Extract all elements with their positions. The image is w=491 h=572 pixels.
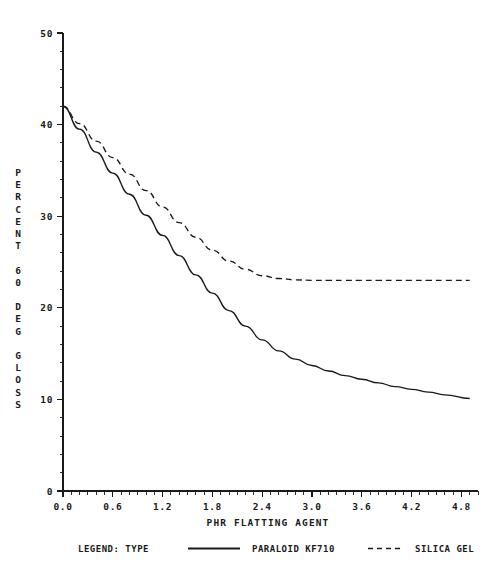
y-axis-label-char: N <box>15 228 21 239</box>
y-axis-label-char: T <box>15 240 21 251</box>
x-axis-title: PHR FLATTING AGENT <box>207 517 330 528</box>
y-axis-label-char: 6 <box>15 265 21 276</box>
x-tick-label: 0.6 <box>103 501 122 512</box>
series-lines <box>63 106 470 398</box>
y-axis-label-char: E <box>15 216 21 227</box>
series-line-1 <box>63 106 470 398</box>
x-axis: 0.00.61.21.82.43.03.64.24.8 <box>54 491 478 512</box>
y-axis-label-char: G <box>15 326 21 337</box>
y-axis-label-char: G <box>15 350 21 361</box>
y-axis-label-char: P <box>15 167 21 178</box>
y-tick-label: 40 <box>40 119 53 130</box>
x-tick-label: 4.2 <box>402 501 421 512</box>
chart-legend: LEGEND: TYPEPARALOID KF710SILICA GEL <box>78 544 474 554</box>
chart-figure: PERCENT60DEGGLOSS 01020304050 0.00.61.21… <box>0 0 491 572</box>
y-tick-label: 0 <box>47 486 53 497</box>
page-caption-strip <box>0 563 491 572</box>
y-tick-label: 20 <box>40 302 53 313</box>
legend-entry-label: SILICA GEL <box>415 544 474 554</box>
legend-title: LEGEND: TYPE <box>78 544 149 554</box>
legend-entry-label: PARALOID KF710 <box>252 544 335 554</box>
y-axis-label-char: D <box>15 301 21 312</box>
chart-canvas: PERCENT60DEGGLOSS 01020304050 0.00.61.21… <box>0 0 491 572</box>
y-tick-label: 30 <box>40 211 53 222</box>
y-axis-label-char: O <box>15 374 21 385</box>
x-tick-label: 3.0 <box>303 501 322 512</box>
y-axis-label-char: E <box>15 179 21 190</box>
y-axis-label-char: S <box>15 399 21 410</box>
x-tick-label: 4.8 <box>452 501 471 512</box>
y-axis-label: PERCENT60DEGGLOSS <box>15 167 21 410</box>
series-line-2 <box>63 106 470 280</box>
y-axis: 01020304050 <box>40 28 63 497</box>
y-axis-label-char: L <box>15 362 21 373</box>
x-tick-label: 1.2 <box>153 501 172 512</box>
x-tick-label: 1.8 <box>203 501 222 512</box>
y-axis-label-char: 0 <box>15 277 21 288</box>
y-axis-label-char: E <box>15 313 21 324</box>
y-axis-label-char: R <box>15 191 21 202</box>
x-tick-label: 0.0 <box>54 501 73 512</box>
y-tick-label: 50 <box>40 28 53 39</box>
y-axis-label-char: S <box>15 387 21 398</box>
y-axis-label-char: C <box>15 204 21 215</box>
x-tick-label: 3.6 <box>352 501 371 512</box>
y-tick-label: 10 <box>40 394 53 405</box>
x-tick-label: 2.4 <box>253 501 272 512</box>
